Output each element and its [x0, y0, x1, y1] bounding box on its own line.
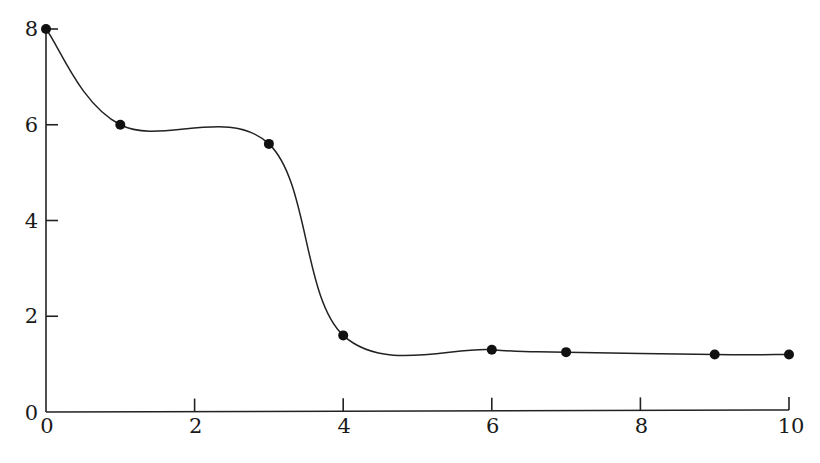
data-points	[41, 24, 794, 360]
y-tick-label: 8	[25, 17, 38, 41]
y-tick-labels: 02468	[25, 17, 38, 425]
x-tick-labels: 0246810	[40, 414, 804, 438]
y-tick-label: 0	[25, 401, 38, 425]
x-tick-label: 4	[338, 414, 351, 438]
data-curve	[46, 29, 789, 356]
data-point-marker	[115, 120, 125, 130]
data-point-marker	[338, 330, 348, 340]
y-tick-label: 6	[25, 113, 38, 137]
data-point-marker	[561, 347, 571, 357]
y-tick-label: 4	[25, 209, 38, 233]
data-point-marker	[784, 350, 794, 360]
x-tick-label: 6	[486, 414, 499, 438]
x-tick-label: 2	[189, 414, 202, 438]
data-point-marker	[264, 139, 274, 149]
data-point-marker	[710, 350, 720, 360]
line-chart: 0246810 02468	[0, 0, 820, 463]
x-tick-label: 10	[778, 414, 805, 438]
x-tick-label: 8	[635, 414, 648, 438]
y-tick-label: 2	[25, 304, 38, 328]
x-tick-label: 0	[40, 414, 53, 438]
data-point-marker	[487, 345, 497, 355]
data-point-marker	[41, 24, 51, 34]
x-axis	[46, 410, 789, 412]
